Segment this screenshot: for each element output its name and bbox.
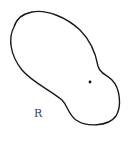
region-label: R — [34, 108, 42, 119]
diagram-canvas — [0, 0, 133, 141]
region-r-boundary — [11, 11, 120, 124]
interior-point — [89, 81, 92, 84]
